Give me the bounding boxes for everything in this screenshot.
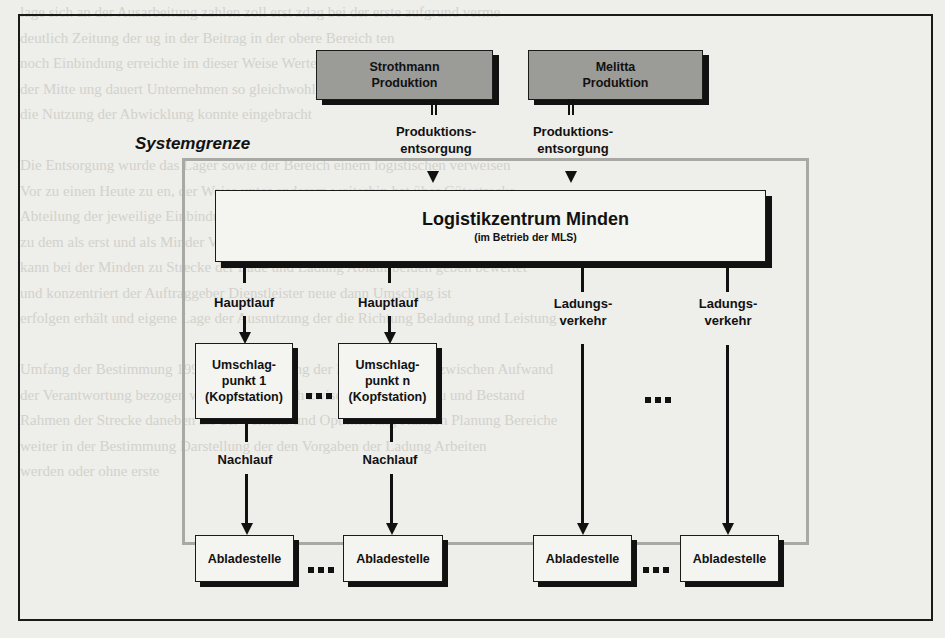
connector-line (243, 265, 246, 283)
system-boundary-label: Systemgrenze (135, 134, 250, 154)
transshipment-point-n: Umschlag- punkt n (Kopfstation) (338, 343, 437, 419)
node-line: punkt 1 (222, 373, 266, 389)
flow-label-line: Produktions- (523, 123, 623, 140)
flow-label-line: verkehr (683, 312, 773, 329)
connector-tick (572, 99, 574, 115)
ellipsis-icon (645, 391, 675, 403)
arrow-down-icon (565, 171, 577, 183)
connector-line (390, 424, 393, 442)
connector-line (726, 345, 729, 525)
unloading-point-4: Abladestelle (680, 535, 779, 582)
arrow-down-icon (577, 523, 589, 535)
flow-label-main-run-1: Hauptlauf (199, 294, 289, 311)
producer-type: Produktion (372, 75, 438, 91)
center-title: Logistikzentrum Minden (422, 208, 629, 230)
arrow-down-icon (386, 523, 398, 535)
flow-label-line: entsorgung (386, 140, 486, 157)
producer-name: Melitta (596, 59, 636, 75)
flow-label-line: Ladungs- (683, 295, 773, 312)
node-line: (Kopfstation) (349, 389, 427, 405)
connector-line (243, 316, 246, 333)
connector-line (581, 262, 584, 292)
flow-label-line: entsorgung (523, 140, 623, 157)
unloading-point-2: Abladestelle (343, 535, 443, 582)
ellipsis-icon (306, 387, 336, 399)
ellipsis-icon (643, 561, 673, 573)
connector-tick (435, 99, 437, 115)
arrow-down-icon (241, 523, 253, 535)
connector-line (726, 268, 729, 292)
connector-tick (431, 99, 433, 115)
producer-melitta: Melitta Produktion (528, 50, 703, 100)
logistics-center-minden: Logistikzentrum Minden (im Betrieb der M… (215, 190, 766, 262)
flow-label-line: verkehr (538, 312, 628, 329)
flow-label-post-run-1: Nachlauf (200, 451, 290, 468)
producer-type: Produktion (583, 75, 649, 91)
producer-strothmann: Strothmann Produktion (316, 50, 493, 100)
connector-line (388, 316, 391, 333)
node-line: (Kopfstation) (205, 389, 283, 405)
node-line: Umschlag- (356, 357, 420, 373)
arrow-down-icon (722, 523, 734, 535)
center-subtitle: (im Betrieb der MLS) (474, 230, 577, 244)
node-line: punkt n (365, 373, 410, 389)
connector-line (245, 474, 248, 525)
flow-label-full-load-1: Ladungs- verkehr (538, 295, 628, 329)
unloading-point-1: Abladestelle (195, 535, 294, 582)
flow-label-line: Ladungs- (538, 295, 628, 312)
flow-label-production-disposal-2: Produktions- entsorgung (523, 123, 623, 157)
connector-line (390, 474, 393, 525)
connector-line (581, 344, 584, 525)
connector-line (388, 265, 391, 283)
unloading-point-3: Abladestelle (533, 535, 632, 582)
connector-tick (568, 99, 570, 115)
transshipment-point-1: Umschlag- punkt 1 (Kopfstation) (195, 343, 293, 419)
flow-label-production-disposal-1: Produktions- entsorgung (386, 123, 486, 157)
flow-label-full-load-2: Ladungs- verkehr (683, 295, 773, 329)
flow-label-main-run-n: Hauptlauf (343, 294, 433, 311)
ellipsis-icon (308, 561, 338, 573)
connector-line (245, 424, 248, 442)
node-line: Umschlag- (212, 357, 276, 373)
flow-label-post-run-n: Nachlauf (345, 451, 435, 468)
producer-name: Strothmann (369, 59, 439, 75)
flow-label-line: Produktions- (386, 123, 486, 140)
arrow-down-icon (427, 171, 439, 183)
